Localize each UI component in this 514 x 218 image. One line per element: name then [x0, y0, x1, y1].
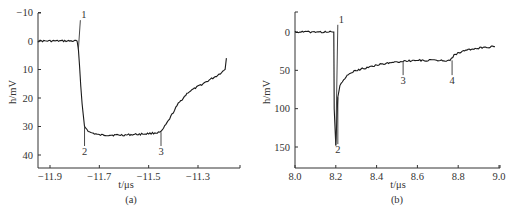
figure: −10010203040−11.9−11.7−11.5−11.3 123 t/μ… [0, 0, 514, 218]
y-tick-label: −10 [17, 7, 33, 18]
annotation-label: 3 [400, 75, 405, 86]
x-tick-label: 8.0 [288, 171, 301, 182]
y-tick-label: 10 [23, 64, 34, 75]
y-tick-label: 40 [23, 150, 34, 161]
panel-b-chart: 0501001508.08.28.48.68.89.0 1234 t/μs h/… [261, 12, 506, 206]
panel-b-caption: (b) [391, 194, 404, 206]
y-tick-label: 20 [23, 93, 34, 104]
panel-b-axes: 0501001508.08.28.48.68.89.0 [274, 12, 505, 182]
annotation-label: 4 [449, 75, 455, 86]
y-tick-label: 0 [28, 36, 33, 47]
y-tick-label: 100 [274, 103, 290, 114]
x-tick-label: 8.8 [452, 171, 465, 182]
panel-a-axes: −10010203040−11.9−11.7−11.5−11.3 [17, 7, 240, 182]
x-tick-label: −11.9 [38, 171, 62, 182]
annotation-label: 2 [82, 146, 87, 157]
panel-a-y-axis-label: h/mV [7, 80, 18, 104]
annotation-label: 3 [158, 146, 163, 157]
panel-a-signal-trace [38, 40, 227, 136]
x-tick-label: 8.2 [329, 171, 342, 182]
annotation-label: 1 [81, 9, 86, 20]
x-tick-label: −11.3 [186, 171, 210, 182]
annotation-label: 2 [335, 144, 340, 155]
x-tick-label: −11.7 [87, 171, 111, 182]
panel-b-y-axis-label: h/mV [261, 80, 272, 104]
y-tick-label: 30 [23, 121, 34, 132]
panel-a-caption: (a) [125, 194, 137, 206]
panel-b-x-axis-label: t/μs [390, 179, 406, 190]
y-tick-label: 0 [285, 27, 290, 38]
y-tick-label: 150 [274, 142, 290, 153]
panel-a-chart: −10010203040−11.9−11.7−11.5−11.3 123 t/μ… [7, 7, 240, 206]
x-tick-label: 8.4 [370, 171, 384, 182]
x-tick-label: 9.0 [492, 171, 505, 182]
panel-a-x-axis-label: t/μs [118, 179, 134, 190]
panel-b-annotations: 1234 [335, 14, 455, 155]
x-tick-label: −11.5 [137, 171, 161, 182]
x-tick-label: 8.6 [411, 171, 424, 182]
y-tick-label: 50 [280, 65, 291, 76]
annotation-label: 1 [339, 14, 344, 25]
panel-b-signal-trace [295, 31, 495, 145]
